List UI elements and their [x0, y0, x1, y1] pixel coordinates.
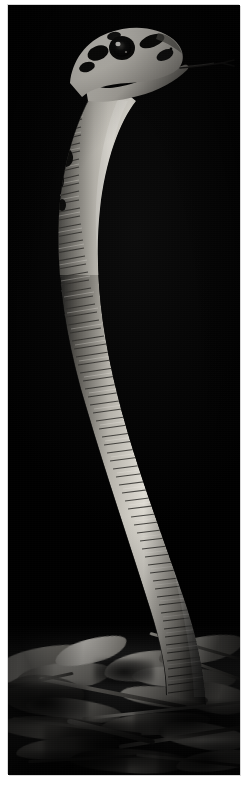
- snake-body: [38, 65, 209, 705]
- subject-label: snake: [0, 0, 1, 1]
- mouth-label: open mouth: [0, 0, 1, 1]
- eye-label: eye: [0, 0, 1, 1]
- photo-alt-text: Snake rearing upright against a black ba…: [0, 0, 1, 1]
- body-label: coiled body with ventral scales: [0, 0, 1, 1]
- nostril: [170, 48, 173, 51]
- eye-pupil: [113, 39, 132, 57]
- snake-head: [70, 28, 234, 102]
- neck-label: raised neck: [0, 0, 1, 1]
- page-root: Snake rearing upright against a black ba…: [0, 0, 252, 788]
- head-label: snake head with open mouth: [0, 0, 1, 1]
- orientation: portrait: [0, 0, 1, 1]
- tongue-label: forked tongue: [0, 0, 1, 1]
- eye: [109, 36, 135, 60]
- ground-label: dry leaf litter and twigs: [0, 0, 1, 1]
- color-mode: black-and-white: [0, 0, 1, 1]
- snake: [8, 5, 240, 775]
- photograph: [8, 5, 240, 775]
- eye-highlight: [115, 42, 120, 46]
- eye-highlight-small: [125, 51, 127, 53]
